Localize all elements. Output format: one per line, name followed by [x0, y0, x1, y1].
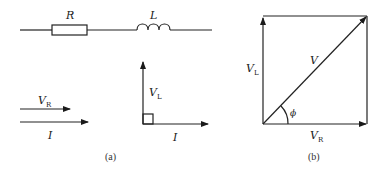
vl-label: VL — [149, 86, 162, 101]
current-label: I — [47, 129, 53, 142]
vr-label: VR — [310, 129, 324, 144]
phasor-diagram: R L VR I VL I (a) ϕ VL V VR (b) — [0, 0, 384, 176]
vr-label: VR — [38, 94, 52, 109]
caption-b: (b) — [308, 151, 320, 163]
phasor-triangle: ϕ VL V VR — [246, 16, 367, 144]
inductor-label: L — [149, 9, 157, 22]
resistor-label: R — [65, 9, 74, 22]
inductor-phasors: VL I — [143, 62, 208, 144]
phi-label: ϕ — [290, 108, 296, 118]
rl-circuit: R L — [20, 9, 212, 35]
angle-arc — [281, 106, 288, 124]
vl-label: VL — [246, 62, 259, 77]
current-label: I — [172, 131, 178, 144]
v-label: V — [310, 54, 319, 67]
resistor-symbol — [52, 25, 87, 35]
resistor-phasors: VR I — [20, 94, 88, 142]
right-angle-marker — [143, 114, 153, 124]
caption-a: (a) — [105, 151, 116, 163]
inductor-symbol — [137, 24, 170, 30]
v-arrow — [263, 17, 366, 124]
